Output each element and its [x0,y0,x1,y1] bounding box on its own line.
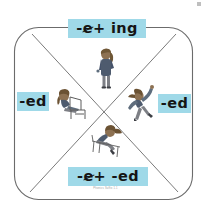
rule-label-top-struck-e: e [83,21,93,36]
rule-label-bottom-suffix: + -ed [94,169,139,184]
rule-label-top-suffix: + ing [93,21,138,36]
rule-label-left[interactable]: -ed [17,92,49,111]
rule-label-right[interactable]: -ed [158,94,191,113]
rule-label-bottom[interactable]: -e + -ed [68,167,148,186]
sitting-person-icon [51,88,89,121]
footer-credit: Phonics Suffix 1.1 [68,187,143,190]
lying-person-icon [84,122,127,158]
worksheet-card: -e + ing -e + -ed -ed -ed Phonics Suffix… [0,0,207,209]
rule-label-bottom-struck-e: e [83,169,93,184]
dancing-person-icon [124,83,159,121]
standing-person-icon [89,47,119,89]
scan-artifact-mark [197,2,201,6]
rule-label-top[interactable]: -e + ing [68,19,146,38]
